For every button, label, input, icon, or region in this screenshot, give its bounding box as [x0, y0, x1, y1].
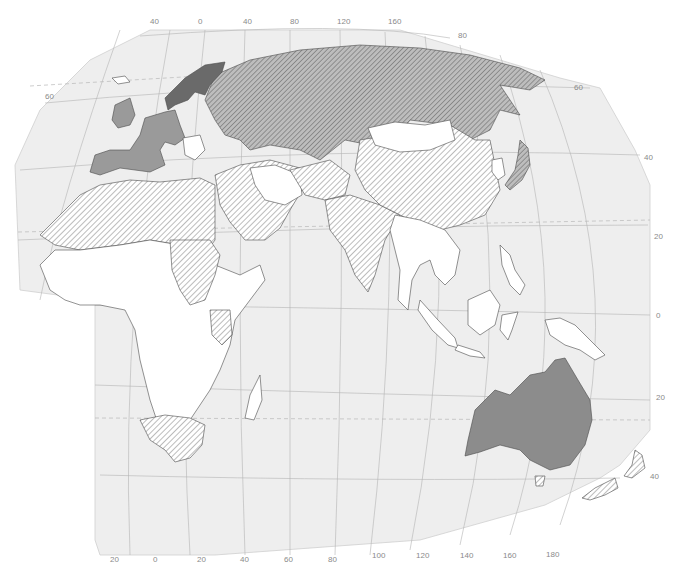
svg-text:180: 180 [546, 550, 560, 559]
svg-text:40: 40 [650, 472, 659, 481]
svg-text:100: 100 [372, 551, 386, 560]
svg-text:20: 20 [110, 555, 119, 564]
svg-text:20: 20 [654, 232, 663, 241]
svg-text:120: 120 [416, 551, 430, 560]
svg-text:80: 80 [458, 31, 467, 40]
region-tasmania [535, 476, 545, 486]
svg-text:120: 120 [337, 17, 351, 26]
svg-text:20: 20 [197, 555, 206, 564]
svg-text:60: 60 [45, 92, 54, 101]
svg-text:0: 0 [656, 311, 661, 320]
svg-text:80: 80 [290, 17, 299, 26]
svg-text:160: 160 [388, 17, 402, 26]
svg-text:60: 60 [284, 555, 293, 564]
svg-text:40: 40 [243, 17, 252, 26]
svg-text:40: 40 [240, 555, 249, 564]
svg-text:140: 140 [460, 551, 474, 560]
longitude-labels-top: 40 0 40 80 120 160 [150, 17, 402, 26]
svg-text:20: 20 [656, 393, 665, 402]
svg-text:60: 60 [574, 83, 583, 92]
svg-text:80: 80 [328, 555, 337, 564]
svg-text:160: 160 [503, 551, 517, 560]
svg-text:0: 0 [198, 17, 203, 26]
svg-text:40: 40 [150, 17, 159, 26]
world-map: 40 0 40 80 120 160 20 0 20 40 60 80 100 … [0, 0, 680, 574]
svg-text:0: 0 [153, 555, 158, 564]
svg-text:40: 40 [644, 153, 653, 162]
